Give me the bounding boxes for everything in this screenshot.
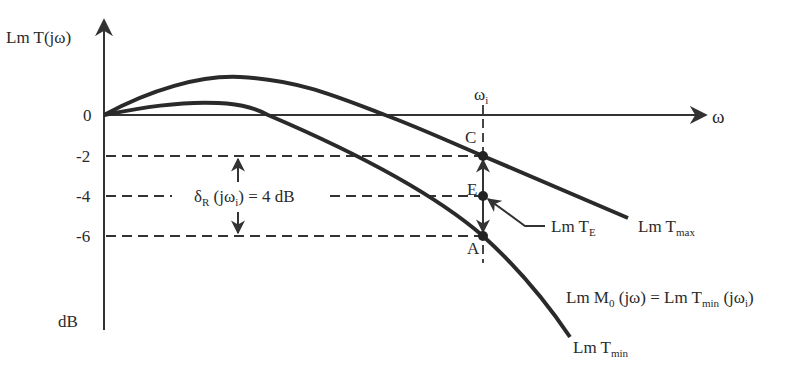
point-a bbox=[478, 231, 488, 241]
omega-i-label: ωi bbox=[474, 86, 488, 106]
point-e bbox=[478, 191, 488, 201]
m0-equation: Lm M0 (jω) = Lm Tmin (jωi) bbox=[566, 289, 754, 309]
y-tick-minus2: -2 bbox=[76, 148, 90, 165]
lm-tmin-label: Lm Tmin bbox=[573, 339, 628, 359]
bode-uncertainty-diagram bbox=[0, 0, 806, 380]
y-tick-minus4: -4 bbox=[76, 188, 90, 205]
point-a-label: A bbox=[467, 240, 479, 257]
delta-r-label: δR (jωi) = 4 dB bbox=[194, 188, 295, 208]
y-axis-label: Lm T(jω) bbox=[6, 29, 71, 46]
y-tick-minus6: -6 bbox=[76, 228, 90, 245]
point-c-label: C bbox=[465, 129, 476, 146]
curve-lm-tmin bbox=[104, 103, 570, 337]
x-axis-label: ω bbox=[712, 107, 725, 126]
y-tick-0: 0 bbox=[83, 107, 92, 124]
lm-te-label: Lm TE bbox=[551, 218, 596, 238]
point-e-label: E bbox=[467, 181, 477, 198]
lm-tmax-label: Lm Tmax bbox=[638, 218, 695, 238]
y-axis-unit: dB bbox=[58, 313, 78, 330]
point-c bbox=[478, 151, 488, 161]
te-leader bbox=[488, 199, 545, 226]
